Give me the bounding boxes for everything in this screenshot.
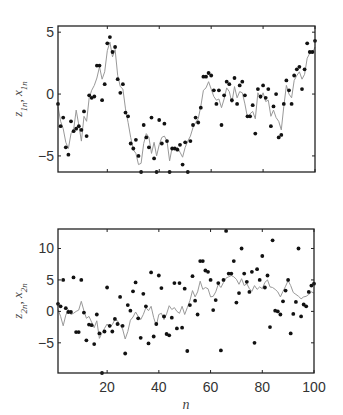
observation-dot	[144, 304, 148, 308]
figure-background	[0, 0, 343, 415]
observation-dot	[209, 74, 213, 78]
observation-dot	[118, 91, 122, 95]
observation-dot	[137, 154, 141, 158]
observation-dot	[82, 311, 86, 315]
observation-dot	[59, 124, 63, 128]
observation-dot	[201, 259, 205, 263]
observation-dot	[216, 281, 220, 285]
observation-dot	[259, 95, 263, 99]
observation-dot	[279, 313, 283, 317]
observation-dot	[211, 308, 215, 312]
observation-dot	[253, 341, 257, 345]
observation-dot	[266, 274, 270, 278]
observation-dot	[311, 50, 315, 54]
observation-dot	[103, 330, 107, 334]
observation-dot	[141, 292, 145, 296]
observation-dot	[116, 77, 120, 81]
observation-dot	[219, 349, 223, 353]
observation-dot	[264, 96, 268, 100]
observation-dot	[281, 299, 285, 303]
observation-dot	[134, 281, 138, 285]
observation-dot	[69, 310, 73, 314]
observation-dot	[79, 278, 83, 282]
observation-dot	[220, 123, 224, 127]
observation-dot	[173, 281, 177, 285]
observation-dot	[178, 143, 182, 147]
y-tick-label: 5	[46, 24, 54, 40]
observation-dot	[291, 312, 295, 316]
observation-dot	[154, 322, 158, 326]
observation-dot	[215, 102, 219, 106]
observation-dot	[162, 315, 166, 319]
observation-dot	[298, 65, 302, 69]
observation-dot	[121, 324, 125, 328]
observation-dot	[206, 270, 210, 274]
observation-dot	[85, 338, 89, 342]
observation-dot	[105, 286, 109, 290]
observation-dot	[144, 136, 148, 140]
figure: −505 z1n, x1n −50510 20406080100 z2n, x2…	[0, 0, 343, 415]
observation-dot	[227, 82, 231, 86]
observation-dot	[72, 276, 76, 280]
observation-dot	[67, 153, 71, 157]
observation-dot	[248, 290, 252, 294]
observation-dot	[123, 352, 127, 356]
observation-dot	[289, 332, 293, 336]
observation-dot	[248, 114, 252, 118]
observation-dot	[92, 95, 96, 99]
observation-dot	[240, 247, 244, 251]
y-tick-label: 0	[46, 303, 54, 319]
observation-dot	[194, 116, 198, 120]
observation-dot	[95, 313, 99, 317]
observation-dot	[240, 80, 244, 84]
observation-dot	[294, 300, 298, 304]
observation-dot	[77, 330, 81, 334]
observation-dot	[90, 323, 94, 327]
observation-dot	[274, 92, 278, 96]
observation-dot	[191, 123, 195, 127]
observation-dot	[147, 342, 151, 346]
observation-dot	[167, 333, 171, 337]
observation-dot	[199, 106, 203, 110]
observation-dot	[163, 122, 167, 126]
observation-dot	[196, 313, 200, 317]
observation-dot	[191, 274, 195, 278]
observation-dot	[116, 322, 120, 326]
observation-dot	[292, 74, 296, 78]
observation-dot	[181, 163, 185, 167]
observation-dot	[183, 287, 187, 291]
observation-dot	[189, 139, 193, 143]
observation-dot	[222, 93, 226, 97]
observation-dot	[98, 64, 102, 68]
observation-dot	[139, 336, 143, 340]
observation-dot	[150, 116, 154, 120]
observation-dot	[242, 272, 246, 276]
observation-dot	[286, 278, 290, 282]
observation-dot	[229, 272, 233, 276]
observation-dot	[279, 133, 283, 137]
observation-dot	[118, 295, 122, 299]
x-tick-label: 60	[203, 379, 219, 395]
observation-dot	[98, 332, 102, 336]
observation-dot	[245, 280, 249, 284]
observation-dot	[266, 87, 270, 91]
x-tick-label: 40	[151, 379, 167, 395]
observation-dot	[108, 324, 112, 328]
observation-dot	[260, 254, 264, 258]
observation-dot	[299, 315, 303, 319]
observation-dot	[64, 306, 68, 310]
observation-dot	[263, 286, 267, 290]
observation-dot	[126, 114, 130, 118]
observation-dot	[61, 278, 65, 282]
observation-dot	[250, 270, 254, 274]
x-tick-label: 100	[302, 379, 326, 395]
observation-dot	[147, 145, 151, 149]
observation-dot	[108, 35, 112, 39]
observation-dot	[251, 103, 255, 107]
observation-dot	[258, 278, 262, 282]
y-tick-label: −5	[38, 335, 54, 351]
observation-dot	[178, 281, 182, 285]
observation-dot	[176, 148, 180, 152]
observation-dot	[188, 303, 192, 307]
observation-dot	[253, 132, 257, 136]
